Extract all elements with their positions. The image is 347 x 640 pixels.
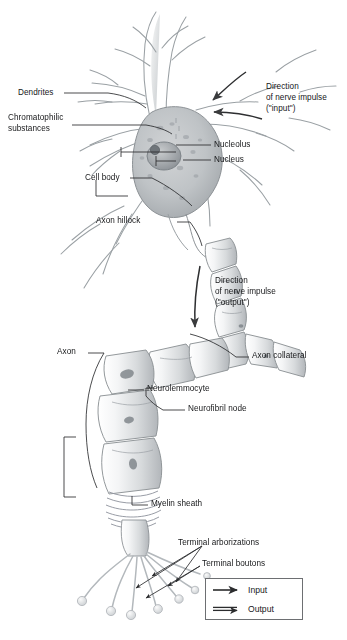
label-output-direction-line1: Direction bbox=[215, 276, 248, 286]
label-neurofibril-node: Neurofibril node bbox=[188, 404, 247, 414]
label-dendrites: Dendrites bbox=[18, 88, 54, 98]
label-output-direction-line2: of nerve impulse bbox=[215, 287, 276, 297]
label-output-direction-line3: ("output") bbox=[215, 298, 250, 308]
label-input-direction-line2: of nerve impulse bbox=[266, 93, 327, 103]
label-terminal-arborizations: Terminal arborizations bbox=[178, 538, 259, 548]
arrow-right-single-icon bbox=[206, 580, 248, 600]
label-nucleolus: Nucleolus bbox=[214, 140, 250, 150]
label-chromatophilic-line1: Chromatophilic bbox=[8, 113, 63, 123]
label-axon: Axon bbox=[57, 347, 76, 357]
label-input-direction-line3: ("input") bbox=[266, 104, 295, 114]
legend-box: Input Output bbox=[205, 578, 303, 620]
label-myelin-sheath: Myelin sheath bbox=[151, 499, 202, 509]
arrow-right-double-icon bbox=[206, 599, 248, 619]
label-terminal-boutons: Terminal boutons bbox=[202, 559, 265, 569]
label-input-direction-line1: Direction bbox=[266, 82, 299, 92]
legend-row-input: Input bbox=[206, 580, 302, 600]
legend-label-output: Output bbox=[248, 604, 274, 614]
label-neurolemmocyte: Neurolemmocyte bbox=[147, 384, 210, 394]
neuron-diagram: Dendrites Chromatophilic substances Cell… bbox=[0, 0, 347, 640]
label-nucleus: Nucleus bbox=[214, 155, 244, 165]
legend-row-output: Output bbox=[206, 599, 302, 619]
legend-label-input: Input bbox=[248, 585, 267, 595]
label-axon-collateral: Axon collateral bbox=[252, 351, 306, 361]
label-cell-body: Cell body bbox=[85, 173, 120, 183]
label-chromatophilic-line2: substances bbox=[8, 124, 50, 134]
label-axon-hillock: Axon hillock bbox=[96, 216, 140, 226]
